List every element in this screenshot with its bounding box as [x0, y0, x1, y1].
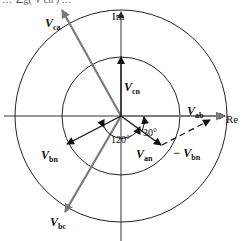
label-V-an: Van — [136, 147, 153, 163]
label-V-bn: Vbn — [41, 148, 58, 164]
real-axis-label: Re — [226, 113, 238, 125]
angle-label-30: 30° — [143, 127, 157, 138]
phasor-V-ca — [62, 10, 121, 116]
label-V-cn: Vcn — [124, 80, 141, 96]
label-V-ca: Vca — [45, 16, 61, 32]
label-V-ab: Vab — [187, 104, 204, 120]
imag-axis-label: Im — [112, 10, 125, 22]
label-V-bc: Vbc — [50, 215, 66, 231]
phasor-diagram: Im Re Vca Vcn Vab Van − Vbn Vbn Vbc 120°… — [0, 0, 242, 241]
phasor-minus-V-bn — [162, 120, 210, 145]
label-minus-V-bn: − Vbn — [173, 146, 201, 162]
angle-label-120: 120° — [111, 134, 130, 145]
